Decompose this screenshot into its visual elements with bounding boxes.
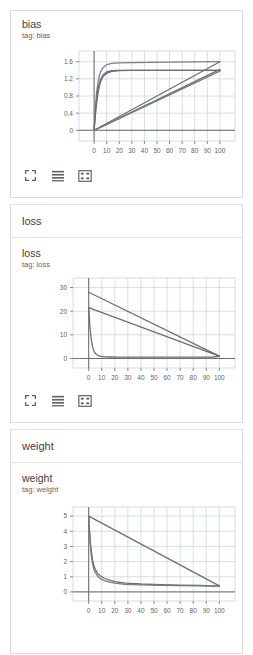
svg-text:100: 100	[214, 147, 225, 154]
dashboard-scroll-panel[interactable]: bias tag: bias 010203040506070809010000.…	[0, 10, 253, 655]
section-title-weight: weight	[22, 440, 54, 452]
svg-text:20: 20	[60, 308, 68, 315]
svg-text:0: 0	[87, 607, 91, 614]
chart-card-loss[interactable]: loss tag: loss 0102030405060708090100010…	[10, 238, 243, 423]
svg-text:10: 10	[60, 331, 68, 338]
svg-text:50: 50	[150, 374, 158, 381]
chart-svg-loss[interactable]: 01020304050607080901000102030	[11, 270, 242, 394]
svg-text:90: 90	[203, 607, 211, 614]
svg-text:60: 60	[163, 607, 171, 614]
svg-text:20: 20	[111, 607, 119, 614]
svg-text:40: 40	[137, 607, 145, 614]
plot-area-weight[interactable]: 0102030405060708090100012345	[11, 495, 242, 628]
svg-text:60: 60	[166, 147, 174, 154]
svg-text:80: 80	[191, 147, 199, 154]
chart-tag-loss: tag: loss	[22, 260, 242, 270]
svg-text:2: 2	[63, 558, 67, 565]
chart-card-header-weight: weight tag: weight	[11, 463, 242, 495]
section-header-loss[interactable]: loss	[10, 204, 243, 238]
svg-text:70: 70	[177, 607, 185, 614]
svg-text:70: 70	[177, 374, 185, 381]
expand-chart-icon[interactable]	[23, 394, 38, 407]
chart-card-header-loss: loss tag: loss	[11, 238, 242, 270]
svg-text:5: 5	[63, 512, 67, 519]
svg-text:3: 3	[63, 543, 67, 550]
section-title-loss: loss	[22, 215, 42, 227]
svg-text:100: 100	[214, 607, 225, 614]
plot-area-bias[interactable]: 010203040506070809010000.40.81.21.6	[11, 41, 242, 167]
chart-toolbar-loss[interactable]	[11, 394, 242, 413]
svg-text:0: 0	[63, 588, 67, 595]
chart-svg-bias[interactable]: 010203040506070809010000.40.81.21.6	[11, 41, 242, 167]
expand-chart-icon[interactable]	[23, 169, 38, 182]
svg-text:30: 30	[60, 284, 68, 291]
svg-text:30: 30	[128, 147, 136, 154]
svg-text:1: 1	[63, 573, 67, 580]
chart-tag-bias: tag: bias	[22, 31, 242, 41]
data-series-icon[interactable]	[50, 169, 65, 182]
chart-title-loss: loss	[22, 247, 242, 259]
chart-tag-weight: tag: weight	[22, 485, 242, 495]
svg-text:10: 10	[103, 147, 111, 154]
chart-toolbar-bias[interactable]	[11, 167, 242, 188]
svg-text:0: 0	[87, 374, 91, 381]
svg-text:80: 80	[190, 374, 198, 381]
chart-title-bias: bias	[22, 18, 242, 30]
svg-text:40: 40	[141, 147, 149, 154]
svg-text:10: 10	[98, 607, 106, 614]
svg-text:40: 40	[137, 374, 145, 381]
svg-text:90: 90	[204, 147, 212, 154]
plot-area-loss[interactable]: 01020304050607080901000102030	[11, 270, 242, 394]
svg-text:10: 10	[98, 374, 106, 381]
svg-text:50: 50	[150, 607, 158, 614]
fit-domain-icon[interactable]	[77, 394, 92, 407]
chart-title-weight: weight	[22, 472, 242, 484]
section-header-weight[interactable]: weight	[10, 429, 243, 463]
svg-text:0: 0	[92, 147, 96, 154]
chart-card-weight[interactable]: weight tag: weight 010203040506070809010…	[10, 463, 243, 654]
fit-domain-icon[interactable]	[77, 169, 92, 182]
svg-text:50: 50	[153, 147, 161, 154]
svg-text:100: 100	[214, 374, 225, 381]
svg-text:80: 80	[190, 607, 198, 614]
svg-text:1.6: 1.6	[64, 58, 73, 65]
svg-text:60: 60	[163, 374, 171, 381]
svg-text:30: 30	[124, 607, 132, 614]
svg-text:1.2: 1.2	[64, 75, 73, 82]
svg-text:0.4: 0.4	[64, 110, 73, 117]
svg-text:0: 0	[69, 127, 73, 134]
svg-text:0: 0	[63, 355, 67, 362]
data-series-icon[interactable]	[50, 394, 65, 407]
svg-text:20: 20	[116, 147, 124, 154]
chart-card-bias[interactable]: bias tag: bias 010203040506070809010000.…	[10, 10, 243, 198]
chart-svg-weight[interactable]: 0102030405060708090100012345	[11, 495, 242, 628]
svg-text:0.8: 0.8	[64, 92, 73, 99]
svg-text:90: 90	[203, 374, 211, 381]
chart-card-header-bias: bias tag: bias	[11, 11, 242, 41]
svg-text:30: 30	[124, 374, 132, 381]
svg-text:20: 20	[111, 374, 119, 381]
svg-text:70: 70	[179, 147, 187, 154]
svg-text:4: 4	[63, 528, 67, 535]
